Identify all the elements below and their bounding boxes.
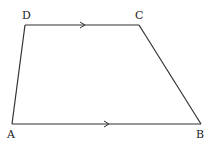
vertex-label-c: C — [135, 9, 143, 22]
vertex-label-b: B — [196, 128, 204, 141]
edge-cb — [139, 25, 201, 124]
trapezoid-diagram: D C A B — [0, 0, 212, 149]
vertex-label-d: D — [22, 9, 31, 22]
vertex-label-a: A — [6, 128, 16, 141]
edge-ad — [12, 25, 25, 124]
